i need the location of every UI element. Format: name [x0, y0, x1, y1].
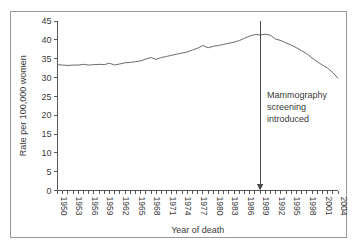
data-series-line	[58, 34, 339, 78]
x-tick-label: 1956	[90, 197, 100, 216]
x-tick-label: 1998	[308, 197, 318, 216]
y-tick-label: 30	[41, 73, 51, 83]
y-tick-label: 45	[41, 16, 51, 26]
x-tick-label: 1974	[183, 197, 193, 216]
x-tick-label: 1995	[292, 197, 302, 216]
x-tick-label: 1980	[215, 197, 225, 216]
line-chart: 051015202530354045Rate per 100,000 women…	[0, 0, 361, 249]
x-tick-label: 1971	[168, 197, 178, 216]
x-tick-label: 1986	[246, 197, 256, 216]
y-tick-label: 40	[41, 35, 51, 45]
y-tick-label: 5	[46, 167, 51, 177]
y-axis-title: Rate per 100,000 women	[18, 55, 28, 156]
x-tick-label: 1992	[277, 197, 287, 216]
annotation-text-line: Mammography	[267, 90, 328, 100]
y-tick-label: 10	[41, 148, 51, 158]
x-tick-label: 1968	[152, 197, 162, 216]
y-tick-label: 15	[41, 129, 51, 139]
y-tick-label: 25	[41, 92, 51, 102]
x-axis-title: Year of death	[171, 225, 224, 235]
y-tick-label: 0	[46, 186, 51, 196]
x-tick-label: 1962	[121, 197, 131, 216]
x-tick-label: 1965	[137, 197, 147, 216]
y-tick-label: 35	[41, 54, 51, 64]
x-tick-label: 1989	[261, 197, 271, 216]
x-tick-label: 1950	[59, 197, 69, 216]
x-tick-label: 1953	[74, 197, 84, 216]
x-tick-label: 2004	[339, 197, 349, 216]
y-tick-label: 20	[41, 110, 51, 120]
chart-figure: 051015202530354045Rate per 100,000 women…	[0, 0, 361, 249]
x-tick-label: 2001	[324, 197, 334, 216]
x-tick-label: 1977	[199, 197, 209, 216]
annotation-text-line: introduced	[267, 114, 309, 124]
annotation-text-line: screening	[267, 102, 306, 112]
annotation-arrowhead	[257, 184, 263, 191]
x-tick-label: 1983	[230, 197, 240, 216]
x-tick-label: 1959	[105, 197, 115, 216]
